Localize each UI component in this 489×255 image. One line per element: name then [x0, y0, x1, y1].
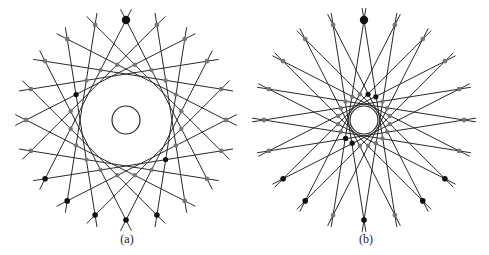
outer-node [280, 176, 286, 182]
middle-node [68, 109, 72, 113]
middle-node [179, 109, 183, 113]
middle-node [336, 122, 340, 126]
chord-line [275, 31, 432, 188]
middle-node [339, 106, 343, 110]
outer-node [331, 22, 336, 27]
outer-node [360, 16, 368, 24]
middle-node [358, 143, 362, 147]
outer-node [64, 198, 70, 204]
middle-node [385, 130, 389, 134]
outer-node [462, 118, 467, 123]
middle-node [380, 136, 384, 140]
outer-node [442, 176, 448, 182]
middle-node [358, 92, 362, 96]
outer-node [266, 87, 271, 92]
chord-line [40, 9, 132, 189]
outer-node [457, 149, 462, 154]
chord-line [121, 51, 213, 231]
middle-node [339, 130, 343, 134]
middle-node [133, 173, 137, 177]
outer-node [219, 87, 224, 92]
star-polygon-figure [0, 0, 489, 255]
outer-node [262, 118, 267, 123]
middle-node [68, 127, 72, 131]
chord-line [40, 51, 132, 231]
middle-node [387, 122, 391, 126]
middle-node [387, 114, 391, 118]
middle-node [350, 141, 355, 146]
chord-line [121, 9, 213, 189]
middle-node [385, 106, 389, 110]
outer-node [420, 198, 426, 204]
outer-node [281, 59, 286, 64]
middle-node [174, 92, 178, 96]
outer-node [154, 212, 160, 218]
outer-node [65, 37, 70, 42]
chord-line [15, 34, 195, 126]
outer-node [43, 59, 48, 64]
middle-node [380, 99, 384, 103]
middle-node [174, 143, 178, 147]
middle-node [343, 136, 348, 141]
outer-node [28, 87, 33, 92]
chord-line [57, 34, 237, 126]
middle-node [336, 114, 340, 118]
middle-node [366, 143, 370, 147]
outer-node [122, 16, 130, 24]
caption-b: (b) [359, 232, 373, 247]
chord-line [275, 53, 432, 210]
outer-node [92, 212, 98, 218]
middle-node [84, 157, 88, 161]
outer-node [182, 37, 187, 42]
middle-node [84, 78, 88, 82]
chord-line [297, 31, 454, 188]
middle-node [374, 141, 378, 145]
outer-node [420, 37, 425, 42]
middle-node [149, 68, 153, 72]
outer-node [224, 118, 229, 123]
middle-node [163, 78, 167, 82]
outer-node [42, 176, 48, 182]
middle-node [163, 157, 168, 162]
middle-node [365, 92, 370, 97]
outer-node [443, 59, 448, 64]
middle-node [149, 168, 153, 172]
middle-node [179, 127, 183, 131]
panel-b-star-diagram [252, 8, 476, 232]
outer-node [219, 149, 224, 154]
middle-node [133, 62, 137, 66]
outer-node [303, 37, 308, 42]
outer-node [331, 213, 336, 218]
chord-line [57, 115, 237, 207]
outer-node [123, 217, 129, 223]
inner-circle [112, 106, 140, 134]
outer-node [361, 217, 367, 223]
outer-node [457, 87, 462, 92]
outer-node [182, 199, 187, 204]
outer-node [24, 118, 29, 123]
middle-node [350, 95, 354, 99]
outer-node [205, 59, 210, 64]
chord-line [297, 53, 454, 210]
chord-line [22, 81, 165, 224]
middle-node [115, 62, 119, 66]
outer-node [205, 176, 210, 181]
chord-line [87, 16, 230, 159]
chord-line [15, 115, 195, 207]
middle-node [98, 168, 102, 172]
outer-node [302, 198, 308, 204]
caption-a: (a) [120, 232, 133, 247]
middle-node [343, 99, 347, 103]
middle-node [115, 173, 119, 177]
outer-node [266, 149, 271, 154]
outer-node [93, 22, 98, 27]
chord-line [87, 81, 230, 224]
panel-a-star-diagram [15, 9, 236, 230]
outer-node [28, 149, 33, 154]
outer-node [155, 22, 160, 27]
middle-node [373, 94, 378, 99]
inner-circle [350, 106, 378, 134]
middle-node [74, 92, 79, 97]
outer-node [393, 22, 398, 27]
middle-node [98, 68, 102, 72]
